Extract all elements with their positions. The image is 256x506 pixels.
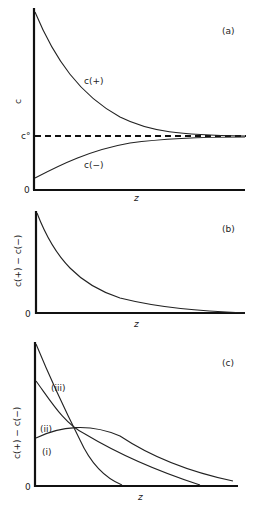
panel-label-a: (a) bbox=[222, 26, 235, 36]
ylabel-a: c bbox=[13, 99, 23, 104]
xlabel-a: z bbox=[133, 193, 139, 203]
label-iii: (iii) bbox=[51, 383, 66, 393]
ylabel-b: c(+) − c(−) bbox=[13, 235, 23, 287]
curve-c-minus bbox=[35, 137, 245, 178]
tick-c0: c° bbox=[21, 131, 30, 141]
label-i: (i) bbox=[42, 447, 52, 457]
label-c-plus: c(+) bbox=[84, 76, 104, 86]
figure: (a) c(+) c(−) c c° 0 z (b) c(+) − c(−) 0… bbox=[0, 0, 256, 506]
panel-label-b: (b) bbox=[222, 224, 235, 234]
panel-c: (c) (iii) (ii) (i) c(+) − c(−) 0 z bbox=[12, 342, 238, 502]
curve-ii bbox=[36, 381, 200, 485]
label-c-minus: c(−) bbox=[84, 160, 104, 170]
panel-b: (b) c(+) − c(−) 0 z bbox=[13, 211, 245, 329]
curve-b bbox=[37, 213, 245, 313]
tick-zero-a: 0 bbox=[24, 185, 30, 195]
curve-c-plus bbox=[35, 12, 245, 136]
curve-i bbox=[36, 428, 233, 481]
panel-label-c: (c) bbox=[222, 358, 234, 368]
tick-zero-b: 0 bbox=[25, 309, 31, 319]
ylabel-c: c(+) − c(−) bbox=[12, 407, 22, 459]
xlabel-b: z bbox=[133, 319, 139, 329]
tick-zero-c: 0 bbox=[25, 482, 31, 492]
label-ii: (ii) bbox=[40, 424, 52, 434]
curve-iii bbox=[36, 344, 122, 485]
xlabel-c: z bbox=[137, 492, 143, 502]
panel-a: (a) c(+) c(−) c c° 0 z bbox=[13, 8, 246, 203]
